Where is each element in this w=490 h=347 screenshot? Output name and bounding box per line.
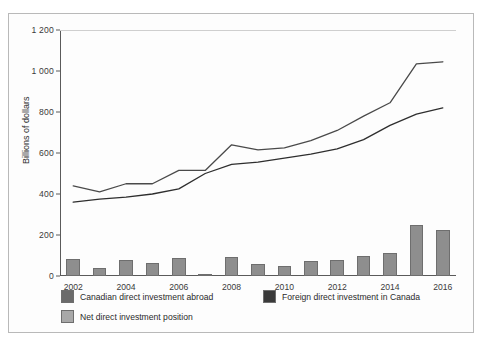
y-tick-label: 400 [39,189,54,199]
legend-swatch-icon-fdic [263,290,276,303]
y-tick-label: 1 200 [31,25,54,35]
chart-figure: Billions of dollars 02004006008001 0001 … [8,13,474,333]
legend-item-canadian-direct-investment-abroad: Canadian direct investment abroad [61,290,213,303]
y-tick-label: 1 000 [31,66,54,76]
line-series [73,108,443,202]
chart-legend: Canadian direct investment abroad Foreig… [61,290,461,330]
plot-area: 02004006008001 0001 200 2002200420062008… [60,30,456,276]
legend-row-2: Net direct investment position [61,310,461,330]
legend-label-fdic: Foreign direct investment in Canada [282,292,420,302]
legend-swatch-icon-cdia [61,290,74,303]
line-series-group [60,30,456,276]
legend-item-net-direct-investment-position: Net direct investment position [61,310,193,323]
y-tick-label: 0 [49,271,54,281]
y-tick-label: 800 [39,107,54,117]
legend-item-foreign-direct-investment-in-canada: Foreign direct investment in Canada [263,290,420,303]
legend-row-1: Canadian direct investment abroad Foreig… [61,290,461,310]
y-tick-label: 600 [39,148,54,158]
y-tick-label: 200 [39,230,54,240]
legend-label-ndip: Net direct investment position [80,312,193,322]
y-axis-title: Billions of dollars [21,96,31,164]
legend-swatch-icon-ndip [61,310,74,323]
legend-label-cdia: Canadian direct investment abroad [80,292,213,302]
